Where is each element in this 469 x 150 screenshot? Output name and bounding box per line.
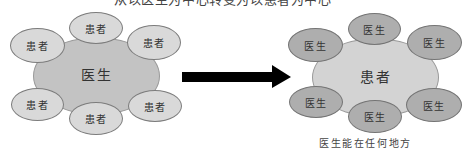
right-satellite-top-center: 医生 (348, 13, 401, 45)
satellite-label: 医生 (305, 95, 328, 110)
diagram-title: 从以医生为中心转变为以患者为中心 (114, 0, 349, 8)
right-satellite-bottom-center: 医生 (348, 100, 402, 133)
right-center-label: 患者 (360, 66, 392, 86)
satellite-label: 患者 (85, 111, 108, 126)
left-satellite-bottom-right: 患者 (128, 90, 182, 122)
left-satellite-top-left: 患者 (10, 28, 65, 63)
satellite-label: 医生 (423, 98, 446, 113)
right-diagram-caption: 医生能在任何地方 (319, 135, 412, 150)
satellite-label: 医生 (423, 35, 446, 50)
left-satellite-bottom-left: 患者 (11, 88, 64, 121)
satellite-label: 医生 (364, 109, 387, 124)
satellite-label: 患者 (144, 99, 167, 114)
right-satellite-top-left: 医生 (288, 28, 343, 62)
satellite-label: 患者 (26, 97, 49, 112)
satellite-label: 患者 (85, 21, 108, 36)
left-satellite-top-right: 患者 (127, 25, 181, 60)
satellite-label: 患者 (26, 38, 49, 53)
right-arrow-icon (180, 62, 294, 92)
diagram-canvas: 从以医生为中心转变为以患者为中心 医生 患者 患者 患者 患者 患者 患者 患者 (0, 0, 469, 150)
satellite-label: 医生 (304, 38, 327, 53)
right-satellite-bottom-right: 医生 (406, 88, 462, 122)
left-center-label: 医生 (81, 64, 113, 84)
right-satellite-top-right: 医生 (407, 25, 462, 60)
left-satellite-bottom-center: 患者 (69, 102, 123, 135)
left-satellite-top-center: 患者 (69, 12, 123, 44)
satellite-label: 医生 (363, 22, 386, 37)
satellite-label: 患者 (143, 35, 166, 50)
right-satellite-bottom-left: 医生 (289, 86, 343, 118)
